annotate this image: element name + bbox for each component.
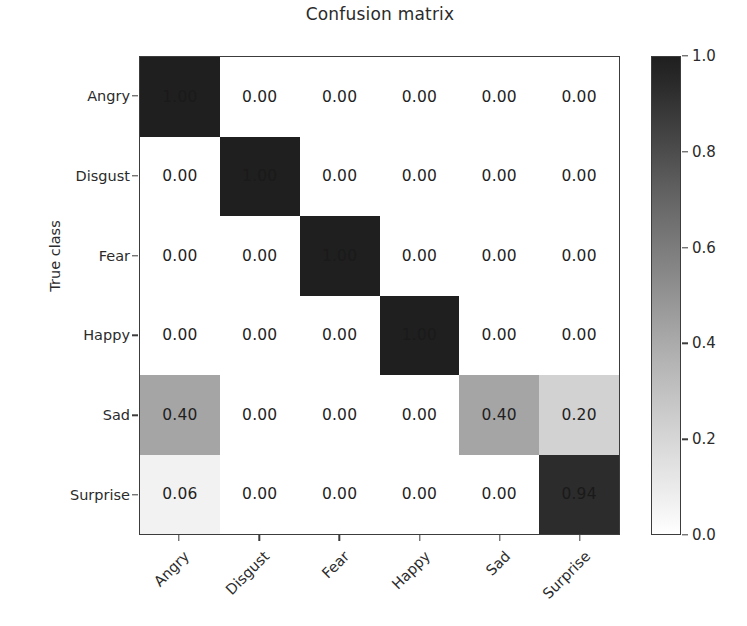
x-tick-label-happy: Happy [376,548,433,605]
y-tick-label-sad: Sad [40,407,130,423]
heatmap-cell: 0.00 [380,455,460,535]
heatmap-cell: 0.00 [220,375,300,455]
colorbar-tick-label-0-2: 0.2 [692,430,716,448]
heatmap-cell-value: 0.00 [242,485,277,503]
heatmap-cell-value: 0.00 [561,326,596,344]
heatmap-cell-value: 1.00 [402,326,437,344]
heatmap-cell: 0.00 [380,216,460,296]
heatmap-cell: 1.00 [140,57,220,137]
heatmap-cell: 0.00 [140,216,220,296]
heatmap-cell-value: 0.00 [322,485,357,503]
colorbar-gradient [652,57,680,534]
heatmap-cell-value: 0.00 [402,485,437,503]
heatmap-plot-area: 1.000.000.000.000.000.000.001.000.000.00… [139,56,620,535]
heatmap-cell-value: 0.00 [162,247,197,265]
heatmap-cell-value: 0.00 [561,167,596,185]
heatmap-cell-value: 0.20 [561,406,596,424]
y-tick-label-happy: Happy [40,327,130,343]
heatmap-cell-value: 0.00 [242,88,277,106]
colorbar-tick-mark [682,247,688,248]
colorbar-tick-label-1-0: 1.0 [692,47,716,65]
y-tick-label-angry: Angry [40,88,130,104]
heatmap-cell-value: 0.00 [242,247,277,265]
y-tick-mark [132,494,138,495]
heatmap-cell: 0.00 [539,216,619,296]
heatmap-cell: 0.40 [459,375,539,455]
heatmap-cell: 0.00 [459,455,539,535]
heatmap-cell: 0.00 [300,137,380,217]
heatmap-cell-value: 1.00 [162,88,197,106]
x-tick-label-text: Surprise [539,548,593,602]
heatmap-cell: 0.00 [220,455,300,535]
heatmap-cell-value: 0.00 [402,406,437,424]
x-tick-label-fear: Fear [296,548,353,605]
heatmap-cell: 0.00 [220,57,300,137]
x-tick-mark [259,535,260,541]
heatmap-cell-value: 0.00 [482,88,517,106]
heatmap-cell-value: 0.00 [322,326,357,344]
heatmap-cell: 0.00 [539,57,619,137]
x-tick-mark [178,535,179,541]
heatmap-cell: 0.00 [380,137,460,217]
heatmap-cell: 0.00 [459,137,539,217]
heatmap-cell-value: 0.40 [482,406,517,424]
heatmap-cell-value: 1.00 [322,247,357,265]
x-tick-mark [579,535,580,541]
heatmap-cell: 0.00 [539,296,619,376]
heatmap-cell-value: 0.00 [322,406,357,424]
heatmap-cell: 0.00 [300,57,380,137]
heatmap-cell-value: 0.00 [402,88,437,106]
heatmap-cell-value: 0.00 [322,88,357,106]
colorbar-tick-mark [682,55,688,56]
heatmap-cell-value: 0.40 [162,406,197,424]
heatmap-cell: 0.20 [539,375,619,455]
heatmap-cell: 0.00 [380,375,460,455]
colorbar-tick-mark [682,151,688,152]
heatmap-cell: 0.00 [300,296,380,376]
heatmap-cell: 0.06 [140,455,220,535]
colorbar [651,56,681,535]
heatmap-cell-value: 0.00 [482,247,517,265]
y-axis-tick-labels: AngryDisgustFearHappySadSurprise [40,56,130,535]
heatmap-cell-value: 0.00 [482,326,517,344]
colorbar-tick-label-0-0: 0.0 [692,526,716,544]
heatmap-cell-value: 0.00 [482,485,517,503]
heatmap-cell: 0.00 [300,455,380,535]
y-tick-mark [132,175,138,176]
heatmap-cell-value: 0.00 [322,167,357,185]
heatmap-cell-value: 0.94 [561,485,596,503]
y-tick-mark [132,255,138,256]
heatmap-cell-value: 1.00 [242,167,277,185]
heatmap-cell: 0.00 [220,296,300,376]
x-tick-label-text: Angry [151,548,193,590]
heatmap-cell: 0.00 [380,57,460,137]
heatmap-cell: 0.00 [459,216,539,296]
x-tick-mark [499,535,500,541]
heatmap-cell-value: 0.00 [162,326,197,344]
heatmap-cell: 0.00 [140,296,220,376]
heatmap-cell: 0.94 [539,455,619,535]
heatmap-cell-value: 0.06 [162,485,197,503]
heatmap-cell: 0.00 [539,137,619,217]
x-tick-label-text: Happy [388,548,432,592]
y-tick-mark [132,95,138,96]
heatmap-cell: 1.00 [220,137,300,217]
y-tick-label-surprise: Surprise [40,487,130,503]
heatmap-cell-value: 0.00 [162,167,197,185]
heatmap-cell-value: 0.00 [561,247,596,265]
y-tick-mark [132,415,138,416]
x-tick-label-text: Disgust [223,548,273,598]
heatmap-cell-value: 0.00 [402,247,437,265]
heatmap-cell: 1.00 [380,296,460,376]
x-tick-label-surprise: Surprise [537,548,594,605]
colorbar-tick-mark [682,534,688,535]
colorbar-tick-label-0-8: 0.8 [692,143,716,161]
heatmap-cell-value: 0.00 [561,88,596,106]
heatmap-cell: 0.00 [220,216,300,296]
x-tick-label-sad: Sad [456,548,513,605]
x-tick-label-text: Fear [319,548,352,581]
x-tick-label-text: Sad [482,548,513,579]
colorbar-tick-label-0-4: 0.4 [692,334,716,352]
x-tick-label-disgust: Disgust [216,548,273,605]
y-tick-mark [132,335,138,336]
